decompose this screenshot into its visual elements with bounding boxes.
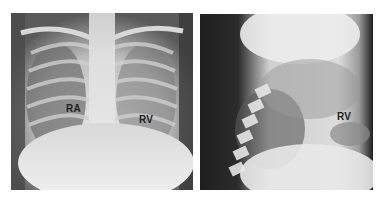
lateral-xray-image: [200, 14, 373, 190]
frontal-xray-image: [11, 13, 193, 190]
label-rv-frontal: RV: [139, 114, 153, 125]
label-ra-frontal: RA: [66, 103, 81, 114]
lateral-xray-panel: [200, 14, 373, 190]
frontal-xray-panel: [11, 13, 193, 190]
label-rv-lateral: RV: [337, 111, 351, 122]
